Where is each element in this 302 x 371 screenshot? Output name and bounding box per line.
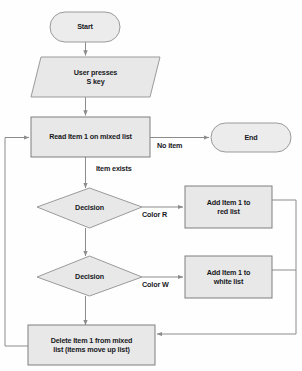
- flowchart-canvas: Start User presses S key Read Item 1 on …: [0, 0, 302, 371]
- edge-label-no-item: No item: [157, 142, 182, 151]
- node-start: [50, 12, 120, 42]
- node-decision2: [37, 256, 142, 296]
- edge-addred-to-rail: [272, 200, 296, 334]
- node-addwhite: [185, 256, 272, 298]
- node-addred: [185, 186, 272, 228]
- edge-label-color-w: Color W: [142, 281, 169, 290]
- edge-label-color-r: Color R: [142, 211, 167, 220]
- edge-label-item-exists: Item exists: [96, 165, 132, 174]
- flowchart-shapes-layer: [0, 0, 302, 371]
- node-delete: [28, 325, 155, 365]
- node-end: [211, 123, 291, 152]
- node-input: [31, 57, 160, 97]
- node-read: [31, 117, 150, 157]
- node-decision1: [37, 188, 142, 228]
- edge-delete-to-read-loop: [5, 138, 29, 347]
